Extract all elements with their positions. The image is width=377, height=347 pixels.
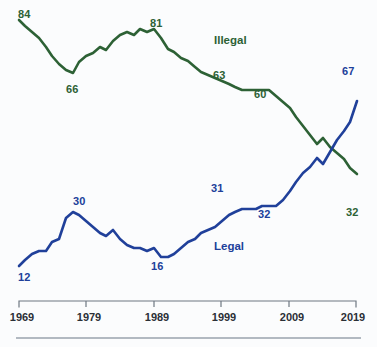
data-label-illegal-2019: 32	[346, 207, 358, 218]
data-label-illegal-1999: 63	[213, 70, 225, 81]
series-line-legal	[19, 101, 357, 266]
data-label-illegal-1977: 66	[66, 84, 78, 95]
data-label-legal-2002: 31	[211, 183, 223, 194]
chart-plot-area	[0, 0, 377, 347]
x-axis-line	[19, 301, 356, 307]
x-tick-label-1989: 1989	[145, 312, 169, 323]
data-label-legal-2007: 32	[258, 209, 270, 220]
series-line-illegal	[19, 20, 357, 174]
data-label-legal-1969: 12	[18, 272, 30, 283]
series-label-illegal: Illegal	[214, 35, 247, 47]
data-label-legal-2019: 67	[342, 66, 354, 77]
x-tick-label-1999: 1999	[212, 312, 236, 323]
data-label-legal-1990: 16	[151, 261, 163, 272]
data-label-illegal-1969: 84	[18, 9, 30, 20]
x-tick-label-2009: 2009	[280, 312, 304, 323]
x-tick-label-1979: 1979	[77, 312, 101, 323]
series-label-legal: Legal	[214, 241, 244, 253]
data-label-illegal-1989: 81	[150, 18, 162, 29]
data-label-legal-1977: 30	[73, 196, 85, 207]
data-label-illegal-2005: 60	[254, 89, 266, 100]
x-tick-label-1969: 1969	[10, 312, 34, 323]
immigration-opinion-line-chart: 84 66 81 63 60 32 12 30 16 31 32 67 Ille…	[0, 0, 377, 347]
x-tick-label-2019: 2019	[341, 312, 365, 323]
